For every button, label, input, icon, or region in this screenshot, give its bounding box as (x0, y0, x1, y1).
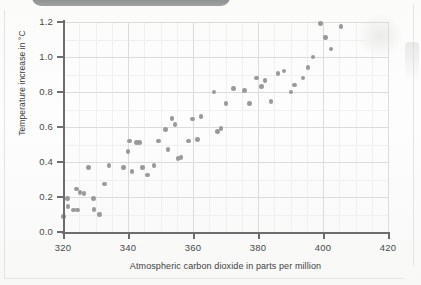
scatter-point (127, 139, 132, 144)
gridline-horizontal-major (63, 92, 388, 93)
y-axis-tick-label: 0.6 (22, 121, 53, 132)
scatter-point (97, 212, 102, 217)
scatter-point (269, 99, 274, 104)
scatter-point (282, 69, 287, 74)
gridline-vertical-major (388, 22, 389, 232)
x-axis-line (62, 232, 389, 234)
scatter-point (224, 101, 229, 106)
x-axis-tick-label: 400 (303, 242, 343, 253)
x-axis-tick-label: 420 (368, 242, 408, 253)
y-axis-tick-label: 0.2 (22, 191, 53, 202)
y-axis-tick (57, 91, 64, 93)
x-axis-tick-label: 340 (108, 242, 148, 253)
scatter-point (254, 76, 259, 81)
plot-area (63, 22, 388, 232)
scatter-point (137, 140, 142, 145)
scatter-point (91, 196, 96, 201)
scatter-point (190, 117, 195, 122)
x-axis-tick-label: 360 (173, 242, 213, 253)
scatter-point (323, 35, 328, 40)
gridline-horizontal-major (63, 57, 388, 58)
scatter-point (75, 208, 80, 213)
gridline-horizontal-minor (63, 180, 388, 181)
scatter-point (289, 90, 294, 95)
scatter-point (231, 86, 236, 91)
scatter-point (247, 101, 252, 106)
gridline-horizontal-minor (63, 145, 388, 146)
scatter-point (65, 196, 70, 201)
scatter-point (242, 88, 247, 93)
y-axis-tick-label: 0.8 (22, 86, 53, 97)
scatter-point (82, 191, 87, 196)
scatter-point (292, 83, 297, 88)
scatter-point (339, 24, 344, 29)
gridline-horizontal-major (63, 162, 388, 163)
scatter-point (318, 21, 323, 26)
scatter-point (170, 116, 175, 121)
scatter-point (263, 78, 268, 83)
scatter-point (66, 204, 71, 209)
x-axis-tick (388, 232, 390, 239)
y-axis-tick-label: 1.0 (22, 51, 53, 62)
scatter-point (219, 126, 224, 131)
gridline-horizontal-minor (63, 215, 388, 216)
scatter-point (173, 122, 178, 127)
scatter-point (140, 165, 145, 170)
scatter-point (156, 139, 161, 144)
scatter-point (306, 65, 311, 70)
scatter-point (152, 163, 157, 168)
scatter-point (195, 137, 200, 142)
x-axis-tick-label: 320 (43, 242, 83, 253)
y-axis-tick-label: 0.4 (22, 156, 53, 167)
scatter-point (212, 90, 217, 95)
gridline-horizontal-major (63, 197, 388, 198)
gridline-horizontal-major (63, 127, 388, 128)
y-axis-tick (57, 196, 64, 198)
scatter-point (102, 182, 107, 187)
scatter-point (311, 55, 316, 60)
x-axis-tick (128, 232, 130, 239)
y-axis-tick (57, 161, 64, 163)
x-axis-tick-label: 380 (238, 242, 278, 253)
y-axis-tick (57, 126, 64, 128)
y-axis-tick (57, 231, 64, 233)
gridline-horizontal-minor (63, 110, 388, 111)
x-axis-tick (323, 232, 325, 239)
y-axis-tick-label: 1.2 (22, 16, 53, 27)
scatter-point (179, 155, 184, 160)
x-axis-tick (258, 232, 260, 239)
scatter-point (126, 149, 131, 154)
scatter-point (92, 207, 97, 212)
gridline-horizontal-major (63, 22, 388, 23)
scatter-point (186, 139, 191, 144)
x-axis-tick (63, 232, 65, 239)
x-axis-title: Atmospheric carbon dioxide in parts per … (63, 261, 388, 271)
scatter-point (130, 169, 135, 174)
scatter-point (259, 84, 264, 89)
scatter-point (163, 127, 168, 132)
y-axis-tick (57, 56, 64, 58)
x-axis-tick (193, 232, 195, 239)
y-axis-tick-label: 0.0 (22, 226, 53, 237)
scatter-point (86, 165, 91, 170)
gridline-horizontal-minor (63, 75, 388, 76)
scatter-point (145, 173, 150, 178)
y-axis-tick (57, 21, 64, 23)
scatter-plot: Temperature increase in °C Atmospheric c… (0, 0, 421, 285)
scatter-point (166, 147, 171, 152)
scatter-point (301, 76, 306, 81)
scatter-point (199, 114, 204, 119)
scatter-point (121, 165, 126, 170)
scatter-point (107, 163, 112, 168)
gridline-horizontal-minor (63, 40, 388, 41)
scatter-point (329, 47, 334, 52)
